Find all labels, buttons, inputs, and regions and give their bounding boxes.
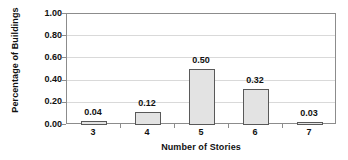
x-tick-mark [228,124,229,128]
y-tick-label: 0.40 [14,75,62,84]
x-tick-mark [120,124,121,128]
bar-value-label: 0.04 [73,108,113,117]
y-tick-label: 0.00 [14,120,62,129]
gridline [67,35,335,36]
x-tick-label: 7 [289,128,329,137]
x-tick-label: 6 [235,128,275,137]
bar-value-label: 0.12 [127,99,167,108]
x-tick-mark [174,124,175,128]
bar [297,122,323,125]
y-tick-mark [62,124,66,125]
bar-chart: Percentage of Buildings 1.000.800.600.40… [0,0,348,160]
bar-value-label: 0.32 [235,76,275,85]
y-tick-label: 0.60 [14,53,62,62]
x-tick-label: 3 [73,128,113,137]
x-tick-label: 4 [127,128,167,137]
bar-value-label: 0.03 [289,109,329,118]
y-tick-label: 0.20 [14,97,62,106]
bar [243,89,269,125]
x-tick-label: 5 [181,128,221,137]
x-axis-title: Number of Stories [66,142,336,152]
y-tick-label: 0.80 [14,31,62,40]
bar-value-label: 0.50 [181,56,221,65]
bar [135,112,161,125]
y-tick-label: 1.00 [14,9,62,18]
bar [189,69,215,125]
x-tick-mark [282,124,283,128]
bar [81,121,107,125]
